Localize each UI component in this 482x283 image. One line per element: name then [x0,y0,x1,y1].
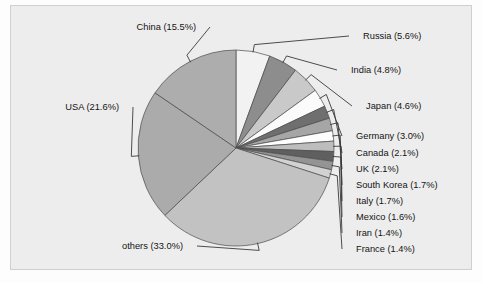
chart-figure-panel: Russia (5.6%)India (4.8%)Japan (4.6%)Ger… [10,5,472,270]
slice-label-china: China (15.5%) [137,22,196,32]
slice-label-usa: USA (21.6%) [65,102,119,112]
slice-label-south-korea: South Korea (1.7%) [356,180,438,190]
slice-label-uk: UK (2.1%) [356,164,399,174]
pie-chart-canvas: Russia (5.6%)India (4.8%)Japan (4.6%)Ger… [11,6,473,271]
slice-label-canada: Canada (2.1%) [356,148,419,158]
slice-label-france: France (1.4%) [356,244,415,254]
slice-label-mexico: Mexico (1.6%) [356,212,415,222]
slice-label-japan: Japan (4.6%) [366,101,421,111]
slice-label-india: India (4.8%) [351,65,401,75]
slice-label-iran: Iran (1.4%) [356,228,402,238]
slice-label-russia: Russia (5.6%) [363,31,421,41]
slice-label-germany: Germany (3.0%) [356,131,424,141]
leader-line-russia [253,36,349,52]
pie-slices-group [138,50,334,246]
slice-label-others: others (33.0%) [122,241,183,251]
slice-label-italy: Italy (1.7%) [356,196,403,206]
